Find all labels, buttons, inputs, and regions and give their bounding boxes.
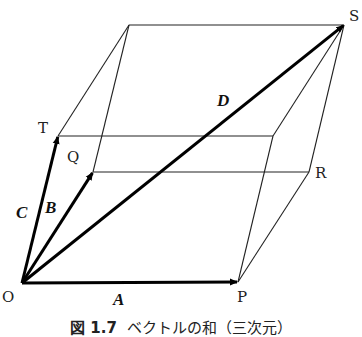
figure-caption: 図 1.7ベクトルの和（三次元） bbox=[0, 316, 362, 337]
point-label-r: R bbox=[315, 166, 326, 181]
point-label-q: Q bbox=[67, 150, 79, 165]
vector-arrow-a bbox=[22, 282, 237, 283]
vector-label-b: B bbox=[45, 199, 56, 216]
parallelepiped-edges bbox=[58, 25, 344, 282]
figure-number: 図 1.7 bbox=[70, 319, 117, 337]
vector-arrow-b bbox=[22, 173, 92, 283]
edge-w-s bbox=[273, 25, 344, 136]
point-label-t: T bbox=[38, 121, 48, 136]
edge-p-w bbox=[238, 136, 273, 282]
point-label-o: O bbox=[2, 290, 14, 305]
point-label-s: S bbox=[349, 9, 359, 24]
vector-label-d: D bbox=[217, 92, 229, 109]
figure-caption-text: ベクトルの和（三次元） bbox=[127, 319, 292, 337]
edge-t-u bbox=[58, 25, 129, 136]
edge-q-u bbox=[93, 25, 129, 172]
vector-label-a: A bbox=[113, 291, 124, 308]
edge-p-r bbox=[238, 172, 309, 282]
vector-label-c: C bbox=[16, 204, 27, 221]
point-label-p: P bbox=[237, 290, 247, 305]
